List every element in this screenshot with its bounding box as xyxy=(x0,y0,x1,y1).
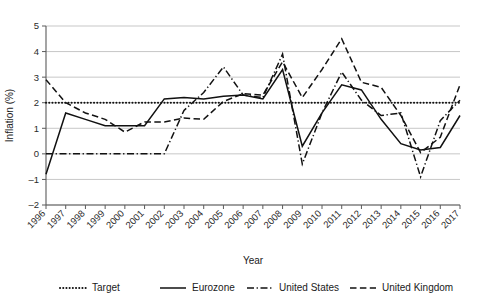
y-tick-label: –1 xyxy=(28,174,39,185)
x-tick-label: 1999 xyxy=(84,208,107,231)
y-tick-label: 3 xyxy=(34,72,39,83)
x-tick-label: 2013 xyxy=(360,208,383,231)
x-tick-label: 2006 xyxy=(222,208,245,231)
x-tick-label: 2009 xyxy=(281,208,304,231)
x-tick-label: 2014 xyxy=(380,208,403,231)
x-tick-label: 2011 xyxy=(321,208,343,230)
x-tick-label: 2016 xyxy=(419,208,442,231)
x-tick-label: 2000 xyxy=(104,208,127,231)
x-tick-label: 1998 xyxy=(64,208,87,231)
gridlines xyxy=(46,26,460,205)
y-tick-label: 1 xyxy=(34,123,39,134)
x-tick-label: 2017 xyxy=(439,208,462,231)
legend-label-eurozone: Eurozone xyxy=(192,282,235,293)
y-axis-ticks: –2–1012345 xyxy=(28,20,46,210)
y-tick-label: 5 xyxy=(34,20,39,31)
data-series-group xyxy=(46,39,460,177)
x-tick-label: 2010 xyxy=(301,208,324,231)
legend-label-united-kingdom: United Kingdom xyxy=(382,282,453,293)
legend-label-target: Target xyxy=(92,282,120,293)
chart-svg: –2–1012345 19961997199819992000200120022… xyxy=(0,0,490,304)
y-tick-label: 4 xyxy=(34,46,39,57)
x-tick-label: 1997 xyxy=(44,208,67,231)
legend-label-united-states: United States xyxy=(279,282,339,293)
x-tick-label: 2003 xyxy=(163,208,186,231)
x-tick-label: 1996 xyxy=(25,208,48,231)
x-axis-ticks: 1996199719981999200020012002200320042005… xyxy=(25,205,462,230)
x-tick-label: 2004 xyxy=(182,208,205,231)
series-line-eurozone xyxy=(46,69,460,174)
x-tick-label: 2012 xyxy=(340,208,363,231)
x-tick-label: 2002 xyxy=(143,208,166,231)
x-tick-label: 2015 xyxy=(399,208,422,231)
series-line-united-states xyxy=(46,54,460,177)
y-axis-title: Inflation (%) xyxy=(4,89,15,142)
chart-legend: TargetEurozoneUnited StatesUnited Kingdo… xyxy=(60,282,453,293)
x-tick-label: 2007 xyxy=(242,208,265,231)
x-tick-label: 2005 xyxy=(202,208,225,231)
series-line-united-kingdom xyxy=(46,39,460,153)
x-tick-label: 2001 xyxy=(123,208,146,231)
x-axis-title: Year xyxy=(243,255,264,266)
inflation-line-chart: –2–1012345 19961997199819992000200120022… xyxy=(0,0,490,304)
y-tick-label: 0 xyxy=(34,148,39,159)
x-tick-label: 2008 xyxy=(261,208,284,231)
y-tick-label: 2 xyxy=(34,97,39,108)
